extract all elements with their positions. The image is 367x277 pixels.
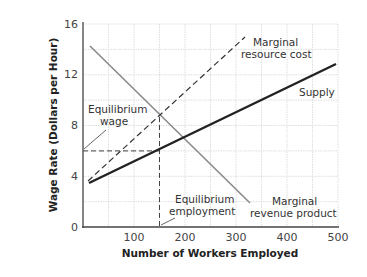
y-tick-12: 12 bbox=[64, 68, 78, 81]
equilibrium-employment-label-1: Equilibrium bbox=[175, 193, 235, 205]
supply-label: Supply bbox=[299, 86, 335, 98]
y-axis-label: Wage Rate (Dollars per Hour) bbox=[47, 38, 59, 213]
x-tick-500: 500 bbox=[328, 231, 349, 244]
x-tick-400: 400 bbox=[277, 231, 298, 244]
y-tick-0: 0 bbox=[71, 221, 78, 234]
equilibrium-wage-label-1: Equilibrium bbox=[88, 103, 148, 115]
mrp-label-1: Marginal bbox=[272, 195, 317, 207]
equilibrium-wage-pointer bbox=[84, 130, 106, 149]
equilibrium-wage-label-2: wage bbox=[100, 115, 128, 127]
mrc-label-2: resource cost bbox=[241, 48, 312, 60]
y-tick-8: 8 bbox=[71, 119, 78, 132]
equilibrium-employment-label-2: employment bbox=[169, 205, 235, 217]
x-tick-200: 200 bbox=[175, 231, 196, 244]
x-tick-300: 300 bbox=[226, 231, 247, 244]
x-tick-100: 100 bbox=[124, 231, 145, 244]
equilibrium-employment-pointer bbox=[161, 218, 175, 225]
y-tick-16: 16 bbox=[64, 18, 78, 31]
labor-market-chart: 16 12 8 4 0 100 200 300 400 500 Number o… bbox=[0, 0, 367, 277]
mrp-label-2: revenue product bbox=[250, 207, 337, 219]
mrc-label-1: Marginal bbox=[253, 36, 298, 48]
x-axis-label: Number of Workers Employed bbox=[122, 247, 299, 259]
y-tick-4: 4 bbox=[71, 170, 78, 183]
